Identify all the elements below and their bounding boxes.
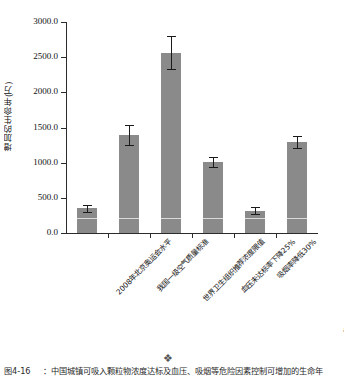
y-tick-label: 3000.0: [33, 16, 58, 26]
error-cap-upper: [83, 205, 92, 206]
y-tick: 500.0: [61, 198, 66, 199]
y-axis-title: 增加的生命年(万): [4, 56, 20, 176]
error-cap-lower: [83, 212, 92, 213]
bar: [161, 53, 181, 233]
figure-caption: 图4-16 ：中国城镇可吸入颗粒物浓度达标及血压、吸烟等危险因素控制可增加的生命…: [0, 366, 344, 377]
bar: [287, 142, 307, 233]
y-tick: 1000.0: [61, 163, 66, 164]
error-cap-upper: [167, 36, 176, 37]
error-bar: [171, 37, 172, 70]
x-tick: [192, 234, 193, 238]
y-tick-label: 2000.0: [33, 86, 58, 96]
error-cap-upper: [209, 157, 218, 158]
y-tick: 3000.0: [61, 22, 66, 23]
error-cap-upper: [251, 207, 260, 208]
y-tick-label: 2500.0: [33, 51, 58, 61]
error-cap-upper: [125, 125, 134, 126]
figure-container: 增加的生命年(万) 0.0500.01000.01500.02000.02500…: [0, 0, 344, 377]
bar: [203, 162, 223, 233]
error-cap-lower: [125, 145, 134, 146]
ornament-icon: ❖: [160, 352, 176, 364]
x-tick: [276, 234, 277, 238]
y-tick: 0.0: [61, 233, 66, 234]
y-tick: 2500.0: [61, 57, 66, 58]
bar-streak: [203, 218, 223, 220]
y-axis-line: [66, 22, 67, 234]
bar-streak: [77, 218, 97, 220]
bar: [119, 135, 139, 233]
bar-streak: [245, 218, 265, 220]
error-cap-lower: [251, 214, 260, 215]
error-cap-lower: [167, 69, 176, 70]
y-tick-label: 0.0: [47, 227, 58, 237]
bar-streak: [161, 218, 181, 220]
plot-area: 0.0500.01000.01500.02000.02500.03000.0: [66, 22, 318, 234]
x-tick: [234, 234, 235, 238]
y-tick: 2000.0: [61, 92, 66, 93]
y-tick: 1500.0: [61, 128, 66, 129]
x-tick: [150, 234, 151, 238]
error-cap-lower: [209, 167, 218, 168]
error-cap-lower: [293, 148, 302, 149]
y-tick-label: 1500.0: [33, 122, 58, 132]
figure-caption-number: 图4-16: [4, 366, 31, 376]
error-bar: [129, 126, 130, 146]
y-tick-label: 500.0: [38, 192, 58, 202]
y-tick-label: 1000.0: [33, 157, 58, 167]
bar-streak: [287, 218, 307, 220]
error-cap-upper: [293, 136, 302, 137]
figure-caption-text: ：中国城镇可吸入颗粒物浓度达标及血压、吸烟等危险因素控制可增加的生命年: [41, 366, 324, 376]
x-tick: [108, 234, 109, 238]
bar-streak: [119, 218, 139, 220]
